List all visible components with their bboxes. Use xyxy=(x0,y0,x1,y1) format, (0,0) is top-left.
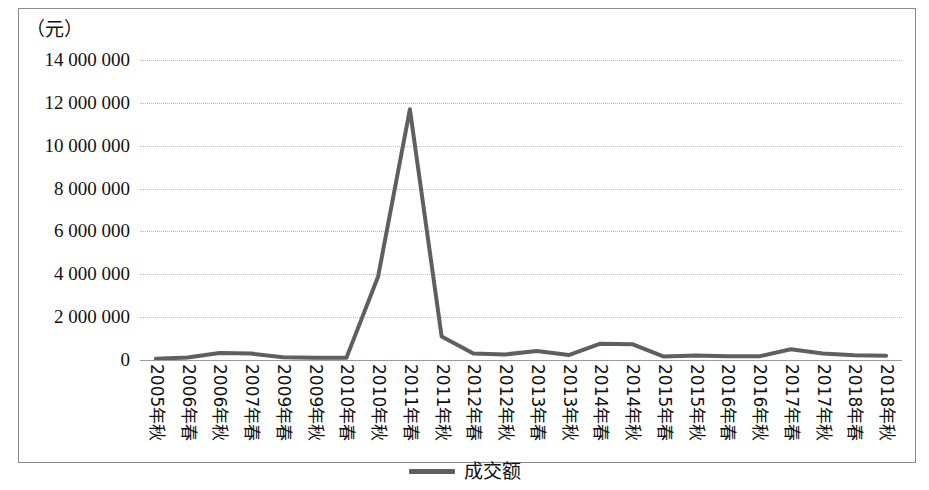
x-axis-tick-label: 2018年秋 xyxy=(877,362,895,458)
x-axis-tick-label: 2015年春 xyxy=(655,362,673,458)
x-axis-tick-label-text: 2017年春 xyxy=(782,364,799,441)
series-line-chengjiaoe xyxy=(140,60,902,360)
x-axis-tick-label: 2006年秋 xyxy=(210,362,228,458)
x-axis-tick-label: 2016年春 xyxy=(718,362,736,458)
y-axis-tick-label: 2 000 000 xyxy=(54,307,130,326)
x-axis-tick-label: 2017年春 xyxy=(782,362,800,458)
y-axis-tick-label: 10 000 000 xyxy=(45,136,131,155)
x-axis-tick-label: 2010年秋 xyxy=(369,362,387,458)
x-axis-tick-label-text: 2012年秋 xyxy=(497,364,514,441)
x-axis-tick-label-text: 2010年春 xyxy=(338,364,355,441)
x-axis-tick-label-text: 2016年秋 xyxy=(751,364,768,441)
x-axis-tick-label-text: 2007年春 xyxy=(243,364,260,441)
chart-legend: 成交额 xyxy=(0,462,929,481)
x-axis-tick-label: 2011年秋 xyxy=(433,362,451,458)
x-axis-tick-label-text: 2009年春 xyxy=(274,364,291,441)
plot-area xyxy=(140,60,902,360)
x-axis-tick-label: 2018年春 xyxy=(845,362,863,458)
x-axis-tick-label: 2012年秋 xyxy=(496,362,514,458)
legend-label-chengjiaoe: 成交额 xyxy=(464,462,521,481)
y-axis-tick-label: 0 xyxy=(121,350,131,369)
x-axis-tick-label-text: 2009年秋 xyxy=(306,364,323,441)
x-axis-tick-label: 2006年春 xyxy=(179,362,197,458)
x-axis-tick-label: 2009年秋 xyxy=(306,362,324,458)
y-axis-tick-labels: 14 000 00012 000 00010 000 0008 000 0006… xyxy=(18,60,130,360)
x-axis-tick-label: 2005年秋 xyxy=(147,362,165,458)
x-axis-tick-label: 2017年秋 xyxy=(814,362,832,458)
x-axis-tick-label-text: 2010年秋 xyxy=(370,364,387,441)
x-axis-tick-label-text: 2014年春 xyxy=(592,364,609,441)
x-axis-tick-label-text: 2017年秋 xyxy=(814,364,831,441)
x-axis-tick-label: 2014年春 xyxy=(591,362,609,458)
x-axis-tick-label: 2013年秋 xyxy=(560,362,578,458)
x-axis-tick-label-text: 2011年秋 xyxy=(433,364,450,441)
chart-figure: （元） 14 000 00012 000 00010 000 0008 000 … xyxy=(0,0,929,490)
x-axis-tick-labels: 2005年秋2006年春2006年秋2007年春2009年春2009年秋2010… xyxy=(140,362,902,462)
y-axis-unit-label: （元） xyxy=(26,14,83,41)
x-axis-tick-label: 2011年春 xyxy=(401,362,419,458)
x-axis-tick-label-text: 2006年秋 xyxy=(211,364,228,441)
x-axis-line xyxy=(140,360,902,361)
x-axis-tick-label-text: 2015年秋 xyxy=(687,364,704,441)
x-axis-tick-label-text: 2013年秋 xyxy=(560,364,577,441)
y-axis-tick-label: 12 000 000 xyxy=(45,93,131,112)
x-axis-tick-label-text: 2018年春 xyxy=(846,364,863,441)
y-axis-tick-label: 14 000 000 xyxy=(45,50,131,69)
x-axis-tick-label: 2014年秋 xyxy=(623,362,641,458)
x-axis-tick-label: 2012年春 xyxy=(464,362,482,458)
x-axis-tick-label-text: 2012年春 xyxy=(465,364,482,441)
y-axis-tick-label: 4 000 000 xyxy=(54,264,130,283)
x-axis-tick-label-text: 2013年春 xyxy=(528,364,545,441)
x-axis-tick-label-text: 2011年春 xyxy=(401,364,418,441)
x-axis-tick-label: 2016年秋 xyxy=(750,362,768,458)
x-axis-tick-label: 2009年春 xyxy=(274,362,292,458)
x-axis-tick-label-text: 2015年春 xyxy=(655,364,672,441)
x-axis-tick-label: 2013年春 xyxy=(528,362,546,458)
series-polyline xyxy=(156,109,886,358)
y-axis-tick-label: 6 000 000 xyxy=(54,221,130,240)
x-axis-tick-label-text: 2014年秋 xyxy=(624,364,641,441)
x-axis-tick-label: 2007年春 xyxy=(242,362,260,458)
x-axis-tick-label-text: 2018年秋 xyxy=(878,364,895,441)
x-axis-tick-label-text: 2005年秋 xyxy=(147,364,164,441)
x-axis-tick-label: 2015年秋 xyxy=(687,362,705,458)
x-axis-tick-label-text: 2006年春 xyxy=(179,364,196,441)
x-axis-tick-label-text: 2016年春 xyxy=(719,364,736,441)
x-axis-tick-label: 2010年春 xyxy=(337,362,355,458)
legend-line-swatch xyxy=(409,469,455,474)
y-axis-tick-label: 8 000 000 xyxy=(54,179,130,198)
